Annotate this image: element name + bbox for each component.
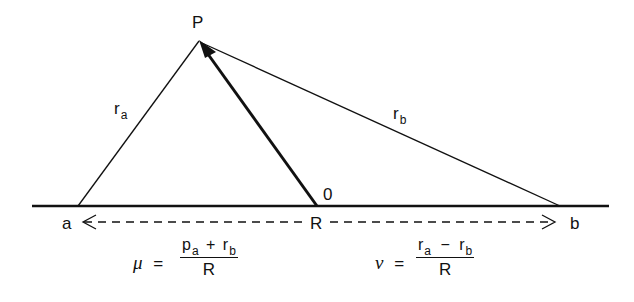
- ra-subscript: a: [121, 108, 128, 122]
- label-b: b: [570, 215, 579, 232]
- arrowhead-P-icon: [199, 40, 216, 58]
- label-rb: rb: [393, 105, 406, 122]
- label-P: P: [192, 14, 203, 31]
- nu-fraction: ra − rb R: [416, 236, 474, 280]
- nu-equals: =: [394, 254, 404, 273]
- nu-numerator: ra − rb: [416, 236, 474, 258]
- diagram-canvas: [0, 0, 634, 302]
- mu-symbol: μ: [133, 252, 143, 273]
- rb-symbol: r: [393, 104, 399, 123]
- label-R: R: [310, 215, 322, 232]
- rb-subscript: b: [400, 113, 407, 127]
- label-a: a: [62, 215, 71, 232]
- nu-denominator: R: [439, 258, 451, 280]
- nu-symbol: ν: [375, 252, 383, 273]
- mu-lhs: μ =: [133, 253, 163, 272]
- label-ra: ra: [114, 100, 127, 117]
- mu-numerator: pa + rb: [180, 236, 238, 258]
- line-rb: [202, 43, 560, 206]
- label-origin: 0: [323, 186, 332, 203]
- vector-R-to-P: [205, 50, 317, 206]
- mu-denominator: R: [203, 258, 215, 280]
- ra-symbol: r: [114, 99, 120, 118]
- mu-fraction: pa + rb R: [180, 236, 238, 280]
- nu-lhs: ν =: [375, 253, 404, 272]
- mu-equals: =: [153, 254, 163, 273]
- line-ra: [78, 41, 199, 206]
